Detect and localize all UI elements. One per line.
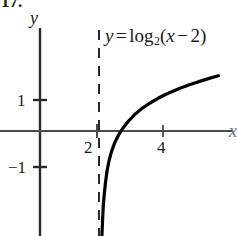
equation-equals: = bbox=[116, 25, 127, 46]
equation-annotation: y=log2(x−2) bbox=[105, 26, 206, 47]
equation-function-name: log bbox=[129, 25, 153, 46]
y-tick-label-1: 1 bbox=[17, 92, 26, 109]
equation-argument-var: x bbox=[166, 25, 174, 46]
equation-lhs: y bbox=[105, 25, 113, 46]
equation-argument-const: 2 bbox=[190, 25, 200, 46]
x-tick-label-2: 2 bbox=[84, 139, 93, 156]
equation-minus: − bbox=[177, 25, 188, 46]
logarithm-graph-figure: 17. y=log2(x−2) y x 1 −1 2 4 bbox=[0, 0, 237, 236]
x-tick-label-4: 4 bbox=[157, 139, 166, 156]
x-axis-label: x bbox=[229, 122, 237, 140]
equation-close-paren: ) bbox=[200, 25, 206, 46]
y-axis-label: y bbox=[30, 9, 38, 27]
y-tick-label-minus-1: −1 bbox=[8, 159, 26, 176]
